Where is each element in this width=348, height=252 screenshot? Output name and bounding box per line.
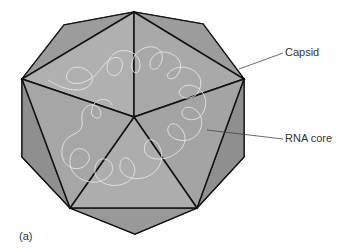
virus-diagram — [0, 0, 348, 252]
capsid-leader-line — [239, 53, 283, 69]
rna-core-label: RNA core — [285, 132, 332, 144]
panel-label: (a) — [19, 230, 32, 242]
capsid-label: Capsid — [285, 46, 319, 58]
